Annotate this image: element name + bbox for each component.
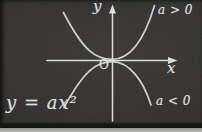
curve-label-a-negative: a < 0 bbox=[156, 95, 191, 107]
y-axis-label: y bbox=[93, 0, 101, 14]
page-edge-strip bbox=[0, 128, 202, 132]
origin-label: O bbox=[99, 59, 109, 71]
blackboard-figure-photo: y x O a > 0 a < 0 y = ax² bbox=[0, 0, 202, 132]
blackboard-background: y x O a > 0 a < 0 y = ax² bbox=[0, 0, 202, 123]
equation-label: y = ax² bbox=[6, 94, 78, 112]
curve-label-a-positive: a > 0 bbox=[158, 4, 193, 16]
x-axis-label: x bbox=[167, 61, 175, 76]
